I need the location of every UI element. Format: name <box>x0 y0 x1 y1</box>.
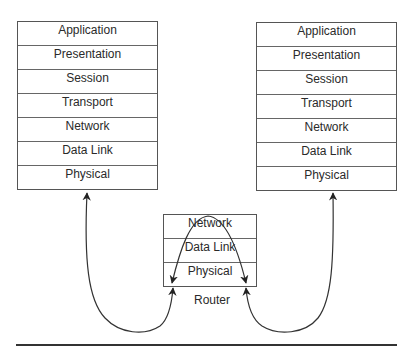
left-host-to-router-arrow <box>86 193 173 332</box>
data-flow-arrows <box>0 0 413 351</box>
network-medium-line <box>16 344 397 346</box>
router-to-right-host-arrow <box>246 193 333 332</box>
router-internal-arc <box>172 216 246 283</box>
